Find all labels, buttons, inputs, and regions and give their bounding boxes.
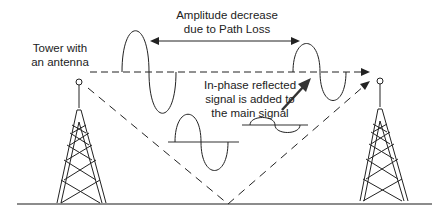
left-tower [57, 79, 106, 203]
reflected-label-line1: In-phase reflected [190, 78, 310, 92]
path-loss-diagram: Amplitude decrease due to Path Loss Towe… [0, 0, 448, 214]
amplitude-label: Amplitude decrease due to Path Loss [172, 8, 282, 36]
tower-label-line1: Tower with [20, 41, 100, 55]
reflected-label: In-phase reflected signal is added to th… [190, 78, 310, 120]
tower-label-line2: an antenna [20, 55, 100, 69]
amplitude-arrow-left [150, 37, 159, 45]
direct-path-arrowhead [361, 68, 370, 76]
amplitude-label-line2: due to Path Loss [172, 22, 282, 36]
reflected-label-line2: signal is added to [190, 92, 310, 106]
amplitude-arrow-right [291, 37, 300, 45]
amplitude-label-line1: Amplitude decrease [172, 8, 282, 22]
tower-label: Tower with an antenna [20, 41, 100, 69]
reflected-label-line3: the main signal [190, 106, 310, 120]
right-tower [360, 78, 408, 201]
reflected-path-arrowhead [360, 81, 370, 90]
